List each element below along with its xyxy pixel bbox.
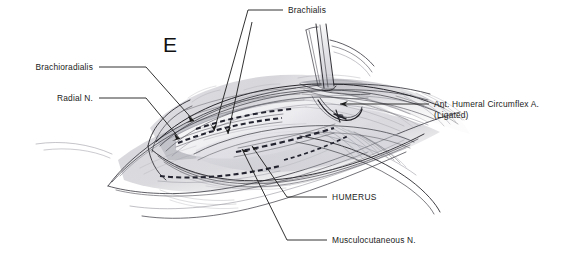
anatomical-figure: E Brachioradialis Radial N. Brachialis A… — [0, 0, 564, 258]
label-musculocutaneous-nerve: Musculocutaneous N. — [332, 235, 416, 245]
label-radial-nerve: Radial N. — [57, 93, 93, 103]
illustration-canvas: E Brachioradialis Radial N. Brachialis A… — [0, 0, 564, 258]
panel-letter: E — [163, 33, 177, 56]
label-ant-humeral-circumflex: Ant. Humeral Circumflex A. — [434, 99, 539, 109]
label-humerus: HUMERUS — [332, 192, 377, 202]
label-brachialis: Brachialis — [288, 5, 326, 15]
label-ant-humeral-circumflex-ligated: (Ligated) — [434, 110, 469, 120]
label-brachioradialis: Brachioradialis — [36, 62, 93, 72]
